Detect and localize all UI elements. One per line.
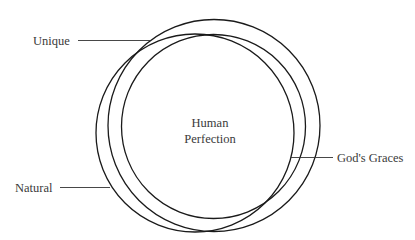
label-natural: Natural — [15, 181, 53, 195]
label-unique: Unique — [33, 34, 70, 48]
venn-diagram: Unique Natural God's Graces Human Perfec… — [0, 0, 415, 240]
center-label-line1: Human — [192, 116, 230, 130]
center-label-line2: Perfection — [184, 132, 236, 146]
label-gods-graces: God's Graces — [337, 151, 404, 165]
